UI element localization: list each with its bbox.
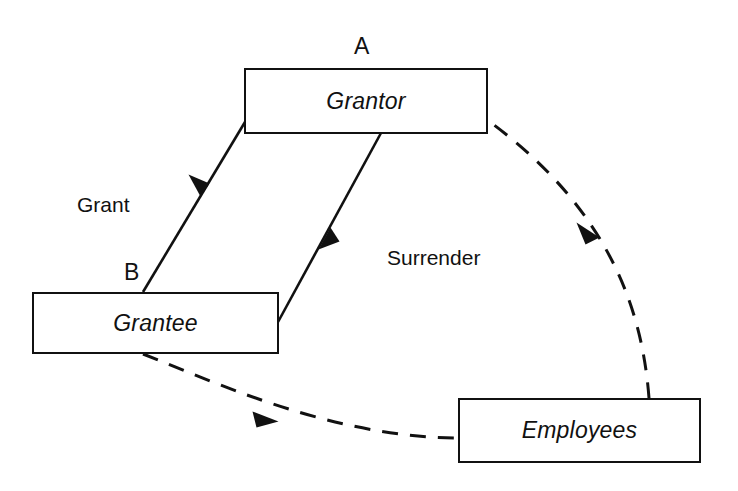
edge-grantee-to-employees-arrowhead (253, 412, 279, 428)
edge-employees-to-grantor (490, 122, 649, 398)
diagram-canvas: Grantor Grantee Employees A B Grant Surr… (0, 0, 738, 491)
edge-grant-line (143, 122, 245, 292)
node-grantee-label: Grantee (113, 310, 198, 337)
point-label-a: A (354, 33, 369, 60)
node-grantor[interactable]: Grantor (244, 68, 488, 134)
edge-employees-to-grantor-path (490, 122, 649, 398)
edge-grantee-to-employees (143, 354, 458, 438)
edge-grant-arrowhead (189, 175, 210, 197)
edge-surrender-arrowhead (319, 228, 340, 250)
node-grantor-label: Grantor (326, 88, 405, 115)
edge-surrender-line (278, 133, 381, 322)
edge-label-surrender: Surrender (387, 246, 480, 270)
edge-grantee-to-employees-path (143, 354, 458, 438)
edge-surrender (278, 133, 381, 322)
point-label-b: B (124, 259, 139, 286)
node-employees-label: Employees (522, 417, 638, 444)
edge-grant (143, 122, 245, 292)
edge-label-grant: Grant (77, 193, 130, 217)
node-employees[interactable]: Employees (458, 398, 701, 463)
node-grantee[interactable]: Grantee (32, 292, 279, 354)
